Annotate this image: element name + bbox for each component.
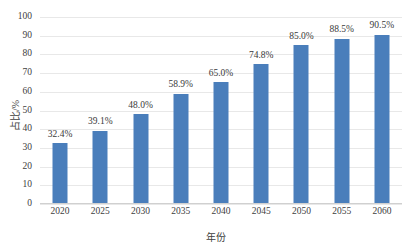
bar[interactable] — [254, 64, 269, 204]
y-axis-tick-label: 40 — [23, 124, 33, 134]
plot-area: 32.4%39.1%48.0%58.9%65.0%74.8%85.0%88.5%… — [40, 17, 402, 204]
x-axis-tick-label: 2035 — [171, 207, 190, 217]
y-axis-tick-label: 100 — [18, 12, 32, 22]
bar[interactable] — [374, 35, 389, 204]
bar-data-label: 90.5% — [370, 21, 395, 31]
bar[interactable] — [133, 114, 148, 204]
x-axis-tick-label: 2020 — [51, 207, 70, 217]
gridline — [40, 204, 402, 205]
x-axis-tick-label: 2040 — [212, 207, 231, 217]
y-axis-tick-label: 80 — [23, 50, 33, 60]
bar-slot: 48.0% — [120, 17, 160, 204]
bar-chart: 占比/% 0102030405060708090100 32.4%39.1%48… — [0, 0, 414, 249]
y-axis-tick-label: 50 — [23, 106, 33, 116]
x-axis-tick-labels: 202020252030203520402045205020552060 — [40, 207, 402, 223]
y-axis-tick-label: 0 — [27, 199, 32, 209]
bar-slot: 85.0% — [281, 17, 321, 204]
bar-data-label: 58.9% — [168, 80, 193, 90]
x-axis-tick-label: 2055 — [332, 207, 351, 217]
x-axis-line — [40, 203, 402, 204]
y-axis-tick-label: 90 — [23, 31, 33, 41]
x-axis-title: 年份 — [40, 229, 392, 244]
y-axis-tick-label: 60 — [23, 87, 33, 97]
x-axis-tick-label: 2060 — [372, 207, 391, 217]
x-axis-tick-label: 2050 — [292, 207, 311, 217]
bar[interactable] — [213, 82, 228, 204]
bar-slot: 90.5% — [362, 17, 402, 204]
bar-data-label: 88.5% — [329, 25, 354, 35]
bar-data-label: 65.0% — [209, 69, 234, 79]
y-axis-tick-label: 70 — [23, 68, 33, 78]
bar-data-label: 39.1% — [88, 117, 113, 127]
x-axis-tick-label: 2045 — [252, 207, 271, 217]
bar[interactable] — [294, 45, 309, 204]
y-axis-tick-label: 20 — [23, 162, 33, 172]
bar-slot: 74.8% — [241, 17, 281, 204]
bar-slot: 65.0% — [201, 17, 241, 204]
y-axis-tick-label: 30 — [23, 143, 33, 153]
x-axis-tick-label: 2025 — [91, 207, 110, 217]
bar[interactable] — [173, 94, 188, 204]
x-axis-tick-label: 2030 — [131, 207, 150, 217]
bar-data-label: 85.0% — [289, 32, 314, 42]
bar-data-label: 74.8% — [249, 51, 274, 61]
bar-series: 32.4%39.1%48.0%58.9%65.0%74.8%85.0%88.5%… — [40, 17, 402, 204]
bar-slot: 88.5% — [322, 17, 362, 204]
bar-slot: 39.1% — [80, 17, 120, 204]
bar-data-label: 48.0% — [128, 101, 153, 111]
y-axis-tick-label: 10 — [23, 181, 33, 191]
bar-data-label: 32.4% — [48, 130, 73, 140]
bar[interactable] — [93, 131, 108, 204]
bar[interactable] — [334, 39, 349, 204]
y-axis-tick-labels: 0102030405060708090100 — [0, 17, 36, 204]
bar[interactable] — [53, 143, 68, 204]
bar-slot: 58.9% — [161, 17, 201, 204]
bar-slot: 32.4% — [40, 17, 80, 204]
